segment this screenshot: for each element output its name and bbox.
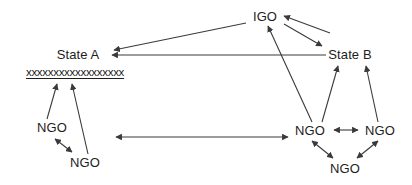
node-state-b[interactable]: State B — [328, 48, 371, 61]
edge-ngo-left-2-to-state-a — [72, 84, 88, 154]
node-state-a[interactable]: State A — [57, 48, 100, 61]
edge-layer — [0, 0, 412, 185]
edge-ngo-left-1-ngo-left-2 — [55, 139, 72, 152]
edge-state-b-to-igo — [284, 16, 330, 33]
edge-igo-to-state-a — [114, 23, 246, 50]
node-ngo-right-3[interactable]: NGO — [330, 162, 360, 175]
node-ngo-right-1[interactable]: NGO — [295, 124, 325, 137]
edge-ngo-right-2-to-state-b — [366, 66, 378, 122]
edge-ngo-right-2-ngo-right-3 — [357, 141, 378, 158]
edge-ngo-right-1-to-state-b — [322, 66, 338, 122]
node-ngo-left-2[interactable]: NGO — [70, 156, 100, 169]
diagram-canvas: IGO State A State B xxxxxxxxxxxxxxxxxx N… — [0, 0, 412, 185]
edge-ngo-right-1-to-igo — [268, 26, 312, 122]
node-redacted-label: xxxxxxxxxxxxxxxxxx — [26, 66, 124, 78]
node-ngo-left-1[interactable]: NGO — [37, 121, 67, 134]
edge-igo-to-state-b — [284, 24, 322, 46]
node-igo[interactable]: IGO — [253, 10, 277, 23]
node-ngo-right-2[interactable]: NGO — [365, 124, 395, 137]
edge-ngo-left-1-to-state-a — [47, 84, 57, 119]
edge-ngo-right-1-ngo-right-3 — [312, 141, 333, 158]
